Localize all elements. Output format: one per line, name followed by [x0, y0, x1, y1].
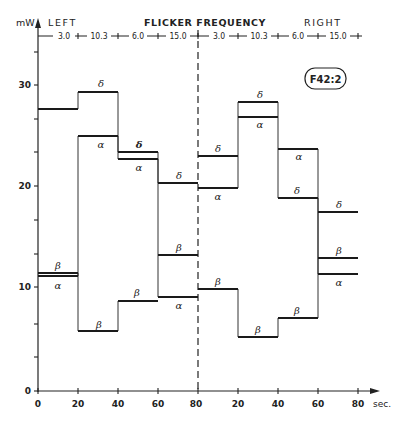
y-axis: 0 10 20 30 mW	[16, 17, 41, 396]
label-delta: δ	[294, 185, 300, 196]
label-alpha: α	[136, 162, 143, 173]
left-panel-verticals	[78, 92, 158, 331]
x-axis: 0 20 40 60 80 20 40 60 80 sec.	[35, 388, 391, 409]
y-tick-0: 0	[25, 386, 31, 396]
freq-left-1: 3.0	[58, 31, 70, 41]
x-tick-80: 80	[190, 399, 203, 409]
chart-title: FLICKER FREQUENCY	[144, 17, 266, 28]
x-tick-60: 60	[152, 399, 165, 409]
freq-right-4: 15.0	[329, 31, 346, 41]
freq-left-3: 6.0	[132, 31, 144, 41]
label-alpha: α	[336, 277, 343, 288]
freq-right-3: 6.0	[292, 31, 304, 41]
right-panel-verticals	[238, 102, 318, 337]
label-alpha: α	[55, 280, 62, 291]
left-label: LEFT	[48, 17, 77, 28]
x-axis-unit: sec.	[373, 399, 391, 409]
label-delta: δ	[98, 78, 104, 89]
label-beta: β	[335, 245, 342, 256]
x-tick-r80: 80	[352, 399, 365, 409]
label-beta: β	[175, 242, 182, 253]
step-chart: 0 10 20 30 mW 0 20 40 60 80 20 40 60 80 …	[0, 0, 404, 421]
y-tick-30: 30	[18, 80, 31, 90]
label-delta: δ	[257, 89, 263, 100]
label-beta: β	[133, 287, 140, 298]
x-tick-r20: 20	[232, 399, 245, 409]
label-alpha: α	[257, 119, 264, 130]
label-alpha: α	[98, 139, 105, 150]
label-delta: δ	[176, 170, 182, 181]
x-axis-arrow-icon	[370, 388, 380, 394]
label-alpha: α	[296, 151, 303, 162]
x-tick-0: 0	[35, 399, 41, 409]
svg-text:F42:2: F42:2	[310, 74, 342, 85]
freq-right-1: 3.0	[213, 31, 225, 41]
label-delta: δ	[336, 199, 342, 210]
right-label: RIGHT	[304, 17, 342, 28]
y-tick-10: 10	[18, 282, 31, 292]
x-tick-40: 40	[112, 399, 125, 409]
label-alpha: α	[176, 300, 183, 311]
label-beta: β	[214, 276, 221, 287]
label-beta: β	[254, 324, 261, 335]
x-tick-r60: 60	[312, 399, 325, 409]
label-beta: β	[293, 305, 300, 316]
freq-left-4: 15.0	[169, 31, 186, 41]
label-delta: δ	[215, 143, 221, 154]
y-axis-arrow-icon	[35, 18, 41, 28]
label-beta: β	[54, 260, 61, 271]
x-tick-r40: 40	[272, 399, 285, 409]
label-delta: δ	[135, 139, 143, 150]
y-tick-20: 20	[18, 181, 31, 191]
figure-badge: F42:2	[305, 68, 346, 89]
header: LEFT FLICKER FREQUENCY RIGHT 3.0 10.3 6.…	[38, 17, 362, 41]
freq-left-2: 10.3	[90, 31, 107, 41]
freq-right-2: 10.3	[250, 31, 267, 41]
y-axis-label: mW	[16, 17, 35, 28]
label-alpha: α	[215, 191, 222, 202]
label-beta: β	[95, 319, 102, 330]
x-tick-20: 20	[72, 399, 85, 409]
